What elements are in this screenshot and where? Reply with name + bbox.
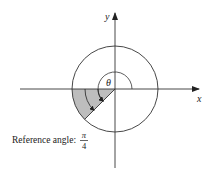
reference-angle-denominator: 4 [82,141,87,151]
reference-angle-numerator: π [82,130,87,140]
theta-label: θ [106,77,111,88]
reference-angle-label: Reference angle: [12,135,76,145]
reference-angle-diagram: y x θ Reference angle: π 4 [0,0,216,172]
y-axis-label: y [104,11,110,22]
reference-angle-sector [72,89,115,119]
x-axis-label: x [196,93,202,104]
